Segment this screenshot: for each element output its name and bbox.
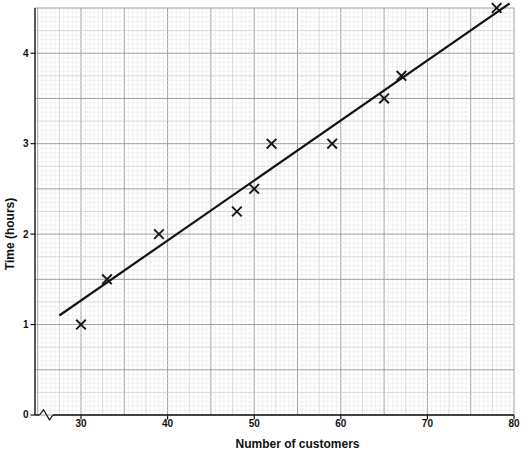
y-tick-label: 2 (23, 229, 29, 240)
x-axis-ticks: 304050607080 (75, 415, 520, 429)
scatter-chart: 304050607080 01234 Number of customers T… (0, 0, 528, 450)
x-tick-label: 70 (422, 418, 434, 429)
scatter-chart-frame: 304050607080 01234 Number of customers T… (0, 0, 528, 450)
x-tick-label: 60 (335, 418, 347, 429)
y-axis-ticks: 01234 (23, 48, 35, 421)
y-axis-title: Time (hours) (3, 198, 17, 270)
x-tick-label: 30 (75, 418, 87, 429)
x-tick-label: 40 (162, 418, 174, 429)
y-tick-label: 0 (23, 409, 29, 420)
y-tick-label: 4 (23, 48, 29, 59)
y-tick-label: 1 (23, 319, 29, 330)
x-tick-label: 50 (249, 418, 261, 429)
y-tick-label: 3 (23, 138, 29, 149)
x-tick-label: 80 (508, 418, 520, 429)
x-axis-title: Number of customers (235, 437, 359, 450)
graph-paper-grid (35, 8, 514, 415)
